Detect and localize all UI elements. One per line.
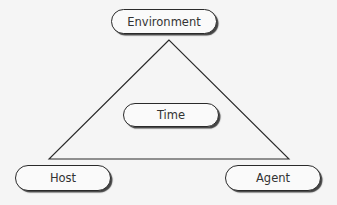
node-environment: Environment bbox=[111, 9, 217, 34]
node-environment-label: Environment bbox=[127, 15, 200, 29]
node-host: Host bbox=[15, 165, 111, 191]
node-agent: Agent bbox=[225, 165, 321, 191]
node-agent-label: Agent bbox=[256, 171, 290, 185]
node-host-label: Host bbox=[50, 171, 76, 185]
node-time-label: Time bbox=[157, 108, 185, 122]
triangle-outline bbox=[49, 40, 289, 159]
node-time: Time bbox=[123, 103, 219, 127]
